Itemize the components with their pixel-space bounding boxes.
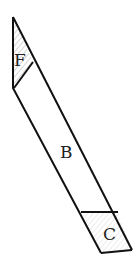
label-c: C (103, 224, 116, 244)
outline-right (13, 17, 132, 250)
label-f: F (14, 50, 26, 70)
diagram-canvas: F B C (0, 0, 140, 260)
label-b: B (60, 142, 73, 162)
